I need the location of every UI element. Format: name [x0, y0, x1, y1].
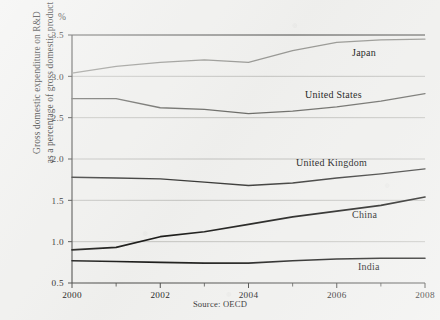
percent-unit-label: % — [58, 12, 66, 22]
data-series-lines — [72, 39, 425, 263]
series-label-japan: Japan — [352, 47, 376, 58]
series-label-united-states: United States — [305, 89, 362, 100]
series-label-india: India — [358, 261, 380, 272]
series-line-united-kingdom — [72, 169, 425, 186]
source-note: Source: OECD — [0, 299, 440, 309]
y-axis-title: Gross domestic expenditure on R&D as a p… — [31, 0, 56, 208]
y-axis-title-line-2: as a percentage of gross domestic produc… — [43, 0, 56, 208]
series-label-united-kingdom: United Kingdom — [296, 157, 367, 168]
y-tick-label: 1.0 — [52, 237, 64, 247]
y-axis-title-line-1: Gross domestic expenditure on R&D — [31, 0, 44, 208]
y-tick-label: 0.5 — [52, 278, 64, 288]
chart-page: % Gross domestic expenditure on R&D as a… — [0, 0, 440, 320]
series-label-china: China — [352, 209, 377, 220]
axis-ticks — [68, 35, 425, 288]
tick-labels: 0.51.01.52.02.53.03.52000200220042006200… — [52, 30, 435, 300]
series-line-united-states — [72, 94, 425, 114]
